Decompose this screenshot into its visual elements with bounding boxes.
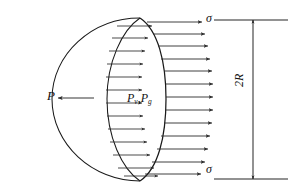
- diameter-label: 2R: [233, 74, 245, 87]
- external-force-label: P: [47, 89, 55, 102]
- internal-pressure-label: Pv,Pg: [127, 92, 152, 106]
- figure-container: P Pv,Pg σ σ 2R: [0, 0, 290, 196]
- surface-stress-arrow-group: [145, 22, 213, 174]
- dimension-2r: [214, 20, 288, 179]
- stress-label-top: σ: [206, 12, 212, 24]
- stress-label-bottom: σ: [206, 163, 212, 175]
- pressure-g-subscript: g: [148, 97, 152, 106]
- pressure-g: P: [141, 91, 148, 105]
